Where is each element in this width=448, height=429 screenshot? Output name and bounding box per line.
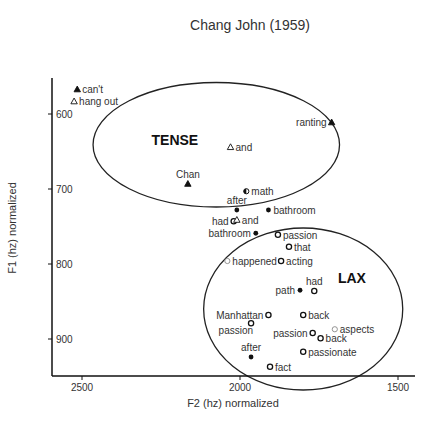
data-point: passionate [301,347,357,358]
x-tick-label: 2000 [229,382,252,393]
open-circle-marker [266,312,271,317]
data-point: had [212,216,236,227]
data-point: after [241,342,262,359]
data-point: passion [273,328,315,339]
data-point: happened [225,256,277,267]
open-circle-marker [267,364,272,369]
open-triangle-marker [227,144,233,150]
point-label: back [308,310,330,321]
point-label: Manhattan [216,310,263,321]
point-label: hang out [79,96,118,107]
point-label: passion [219,325,253,336]
point-label: and [242,215,259,226]
y-axis-label: F1 (hz) normalized [6,182,18,274]
data-point: back [301,310,331,321]
filled-triangle-marker [74,86,80,92]
open-triangle-marker [71,98,77,104]
data-point: bathroom [209,228,259,239]
data-points: can'thang outrantingandChanmathafterbath… [71,84,374,373]
point-label: path [276,285,295,296]
point-label: after [227,195,248,206]
data-point: back [318,333,348,344]
data-point: and [227,142,252,153]
point-label: and [236,142,253,153]
data-point: math [244,186,274,197]
x-tick-label: 2500 [71,382,94,393]
point-label: had [212,216,229,227]
y-tick-label: 600 [56,109,73,120]
data-point: path [276,285,303,296]
point-label: Chan [176,169,200,180]
data-point: fact [267,362,291,373]
point-label: passion [273,328,307,339]
y-tick-label: 900 [56,334,73,345]
point-label: can't [82,84,103,95]
open-circle-marker [225,258,230,263]
open-circle-marker [286,244,291,249]
point-label: had [306,276,323,287]
open-circle-marker [318,336,323,341]
data-point: after [227,195,248,212]
point-label: math [251,186,273,197]
data-point: can't [74,84,103,95]
point-label: passionate [308,347,357,358]
open-circle-marker [312,288,317,293]
x-axis-label: F2 (hz) normalized [187,397,279,409]
open-circle-marker [332,327,337,332]
filled-triangle-marker [185,181,191,187]
filled-circle-marker [234,208,239,213]
open-circle-marker [310,330,315,335]
point-label: ranting [296,117,327,128]
point-label: bathroom [273,205,315,216]
filled-circle-marker [298,288,303,293]
filled-circle-marker [266,208,271,213]
point-label: bathroom [209,228,251,239]
filled-circle-marker [253,231,258,236]
open-circle-marker [275,232,280,237]
region-ellipse-tense [93,83,339,208]
data-point: passion [219,321,254,337]
open-circle-marker [278,258,283,263]
region-label-tense: TENSE [152,132,199,148]
point-label: fact [275,362,291,373]
data-point: had [306,276,323,294]
point-label: acting [286,256,313,267]
region-label-lax: LAX [338,270,367,286]
y-tick-label: 800 [56,259,73,270]
data-point: hang out [71,96,118,107]
point-label: happened [232,256,276,267]
y-tick-label: 700 [56,184,73,195]
chart-title: Chang John (1959) [190,17,310,33]
x-tick-label: 1500 [387,382,410,393]
open-circle-marker [301,349,306,354]
point-label: passion [283,230,317,241]
data-point: passion [275,230,317,241]
data-point: acting [278,256,312,267]
filled-circle-marker [249,355,254,360]
vowel-plot: Chang John (1959) TENSELAX 2500200015006… [0,0,448,429]
open-circle-marker [301,312,306,317]
point-label: after [241,342,262,353]
point-label: back [326,333,348,344]
data-point: Chan [176,169,200,187]
data-point: that [286,242,311,253]
data-point: and [234,215,259,226]
point-label: that [294,242,311,253]
data-point: bathroom [266,205,316,216]
data-point: Manhattan [216,310,271,321]
